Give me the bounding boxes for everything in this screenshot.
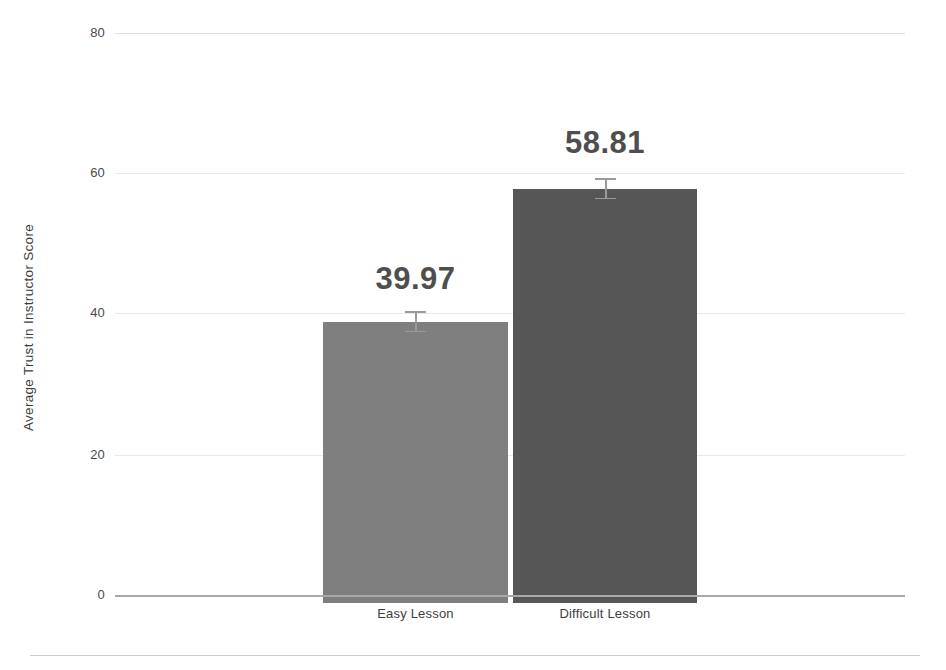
error-bar-stem xyxy=(415,311,417,332)
error-bar-difficult-lesson xyxy=(605,178,606,199)
bar-value-label-difficult-lesson: 58.81 xyxy=(513,125,697,161)
plot-area: 39.97 58.81 xyxy=(115,25,905,603)
y-axis-title: Average Trust in Instructor Score xyxy=(21,78,36,578)
error-bar-cap-top xyxy=(405,311,426,313)
error-bar-cap-top xyxy=(595,178,616,180)
y-tick-label-40: 40 xyxy=(45,305,105,320)
gridline-60 xyxy=(115,173,905,174)
y-tick-label-0: 0 xyxy=(45,587,105,602)
x-axis-label-easy-lesson: Easy Lesson xyxy=(323,606,508,621)
bar-chart-figure: Average Trust in Instructor Score 80 60 … xyxy=(0,0,946,670)
bar-difficult-lesson[interactable] xyxy=(513,189,697,603)
bar-difficult-lesson-fill xyxy=(513,189,697,603)
y-tick-label-60: 60 xyxy=(45,165,105,180)
bar-value-label-easy-lesson: 39.97 xyxy=(323,261,508,297)
error-bar-easy-lesson xyxy=(415,311,416,332)
error-bar-stem xyxy=(605,178,607,199)
x-axis-label-difficult-lesson: Difficult Lesson xyxy=(513,606,697,621)
gridline-20 xyxy=(115,455,905,456)
page-bottom-divider xyxy=(30,655,920,656)
gridline-80 xyxy=(115,33,905,34)
x-axis-line xyxy=(115,595,905,597)
y-tick-label-20: 20 xyxy=(45,447,105,462)
error-bar-cap-bottom xyxy=(595,198,616,200)
bar-easy-lesson[interactable] xyxy=(323,322,508,603)
y-tick-label-80: 80 xyxy=(45,25,105,40)
error-bar-cap-bottom xyxy=(405,331,426,333)
gridline-40 xyxy=(115,313,905,314)
bar-easy-lesson-fill xyxy=(323,322,508,603)
